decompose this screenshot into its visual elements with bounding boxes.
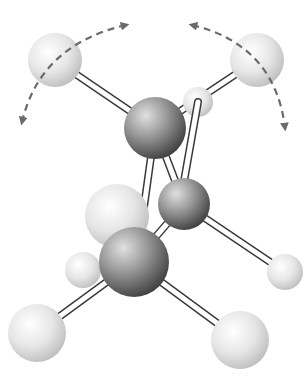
hydrogen-atom-h-bottom-left — [8, 304, 66, 362]
carbon-atom-c-lower — [99, 227, 169, 297]
hydrogen-atom-h-right-small — [267, 254, 303, 290]
atoms-and-bonds — [8, 33, 303, 369]
carbon-atom-c-mid-right — [158, 178, 210, 230]
hydrogen-atom-h-top-left — [28, 33, 82, 87]
molecule-canvas — [0, 0, 308, 382]
hydrogen-atom-h-bottom-right — [211, 311, 269, 369]
hydrogen-atom-h-left-small — [65, 252, 101, 288]
molecule-diagram — [0, 0, 308, 382]
carbon-atom-c-upper — [124, 97, 186, 159]
